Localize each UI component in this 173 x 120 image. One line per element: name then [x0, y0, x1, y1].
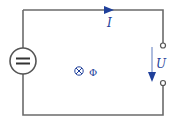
- current-label: I: [106, 16, 112, 30]
- dc-source-icon: [10, 48, 36, 74]
- top-wire: [23, 10, 163, 43]
- flux-into-page-icon: [75, 67, 83, 75]
- flux-label: Φ: [89, 67, 97, 78]
- bottom-wire: [23, 74, 163, 115]
- circuit-diagram: I U Φ: [0, 0, 173, 120]
- terminal-top-icon: [161, 43, 166, 48]
- voltage-label: U: [156, 57, 167, 71]
- current-arrow-icon: [104, 6, 114, 14]
- terminal-bottom-icon: [161, 81, 166, 86]
- voltage-arrow-icon: [148, 47, 156, 82]
